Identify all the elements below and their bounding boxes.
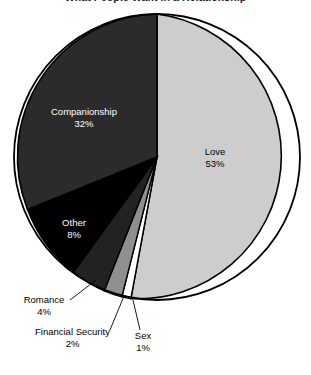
pie-label-financial-security-value: 2% (21, 338, 124, 350)
leader-line-financial-security (110, 296, 124, 330)
pie-svg (0, 0, 311, 375)
pie-label-companionship-value: 32% (32, 118, 136, 130)
pie-label-love-value: 53% (185, 158, 245, 170)
pie-label-sex-value: 1% (124, 342, 162, 354)
pie-label-sex: Sex 1% (124, 330, 162, 353)
pie-chart: What People Want in a Relationship Love … (0, 0, 311, 375)
pie-label-love: Love 53% (185, 146, 245, 169)
pie-label-companionship: Companionship 32% (32, 106, 136, 129)
pie-label-other: Other 8% (44, 217, 104, 240)
pie-label-romance: Romance 4% (6, 294, 82, 317)
pie-label-companionship-name: Companionship (32, 106, 136, 118)
pie-label-love-name: Love (185, 146, 245, 158)
leader-line-sex (133, 300, 140, 330)
pie-label-sex-name: Sex (124, 330, 162, 342)
pie-label-other-name: Other (44, 217, 104, 229)
pie-label-other-value: 8% (44, 229, 104, 241)
pie-label-financial-security: Financial Security 2% (21, 326, 124, 349)
pie-label-romance-name: Romance (6, 294, 82, 306)
pie-label-financial-security-name: Financial Security (21, 326, 124, 338)
pie-label-romance-value: 4% (6, 306, 82, 318)
